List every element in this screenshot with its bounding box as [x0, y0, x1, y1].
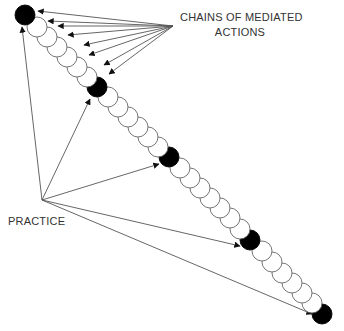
practice-arrow: [42, 164, 159, 200]
mediated-action-node-filled: [15, 5, 35, 25]
practice-label: PRACTICE: [8, 214, 65, 229]
mediated-action-diagram: [0, 0, 344, 331]
action-chain: [15, 5, 332, 324]
chain-arrow: [89, 26, 173, 55]
practice-arrow: [22, 27, 42, 200]
chain-arrow: [68, 26, 173, 35]
practice-arrow: [42, 99, 90, 200]
chain-arrow: [104, 26, 173, 65]
chains-label-line1: CHAINS OF MEDIATED: [180, 10, 300, 25]
chains-label-line2: ACTIONS: [180, 25, 300, 40]
chains-of-mediated-actions-label: CHAINS OF MEDIATED ACTIONS: [180, 10, 300, 40]
